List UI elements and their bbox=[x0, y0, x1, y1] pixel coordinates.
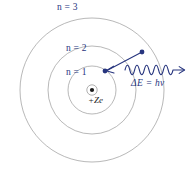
shell-label-n1: n = 1 bbox=[66, 68, 87, 78]
bohr-model-diagram: n = 3 n = 2 n = 1 +Ze ΔE = hν bbox=[0, 0, 196, 169]
nucleus-core-dot bbox=[90, 88, 94, 92]
photon-energy-label: ΔE = hν bbox=[131, 79, 165, 89]
photon-wave bbox=[125, 65, 184, 75]
bohr-model-canvas bbox=[0, 0, 196, 169]
shell-label-n3: n = 3 bbox=[57, 3, 78, 13]
nucleus-charge-label: +Ze bbox=[88, 96, 103, 105]
shell-label-n2: n = 2 bbox=[66, 44, 87, 54]
electron-on-n1 bbox=[103, 69, 108, 74]
electron-on-n2 bbox=[140, 50, 145, 55]
transition-arrow-line bbox=[107, 52, 142, 71]
